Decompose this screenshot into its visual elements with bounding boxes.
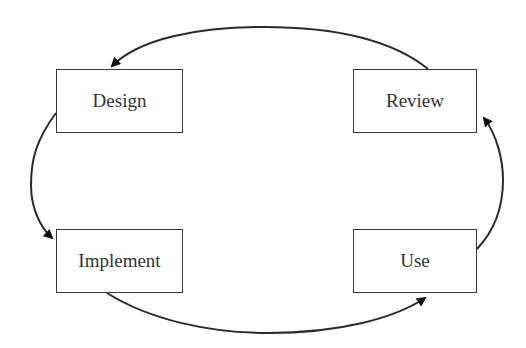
node-implement: Implement bbox=[56, 229, 183, 293]
edge-implement-to-use bbox=[107, 293, 425, 333]
edge-design-to-implement bbox=[31, 113, 56, 238]
edge-review-to-design bbox=[112, 27, 428, 69]
node-implement-label: Implement bbox=[78, 250, 160, 272]
node-use: Use bbox=[353, 229, 477, 293]
node-review-label: Review bbox=[386, 90, 444, 112]
cycle-edges bbox=[0, 0, 526, 348]
edge-use-to-review bbox=[477, 118, 503, 249]
node-review: Review bbox=[353, 69, 477, 133]
node-design-label: Design bbox=[93, 90, 147, 112]
node-use-label: Use bbox=[400, 250, 430, 272]
node-design: Design bbox=[56, 69, 183, 133]
